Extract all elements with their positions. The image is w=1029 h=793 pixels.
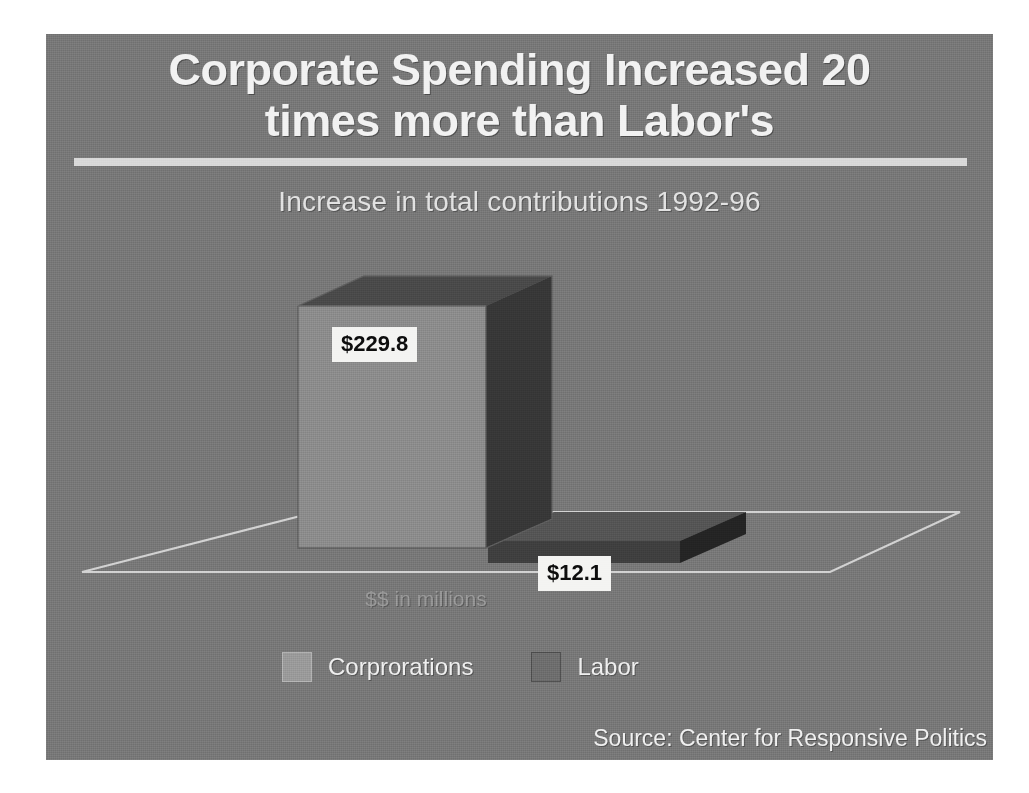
data-label-labor: $12.1 — [538, 556, 611, 591]
bar-corp-side — [486, 276, 552, 548]
legend-item-labor: Labor — [531, 652, 638, 682]
legend-swatch-corporations — [282, 652, 312, 682]
axis-units-label: $$ in millions — [46, 587, 806, 611]
chart-legend: Corprorations Labor — [282, 652, 639, 682]
legend-label-corporations: Corprorations — [328, 653, 473, 681]
legend-item-corporations: Corprorations — [282, 652, 473, 682]
legend-label-labor: Labor — [577, 653, 638, 681]
legend-swatch-labor — [531, 652, 561, 682]
source-credit: Source: Center for Responsive Politics — [593, 725, 987, 752]
data-label-corporations: $229.8 — [332, 327, 417, 362]
slide-canvas: Corporate Spending Increased 20 times mo… — [46, 34, 993, 760]
